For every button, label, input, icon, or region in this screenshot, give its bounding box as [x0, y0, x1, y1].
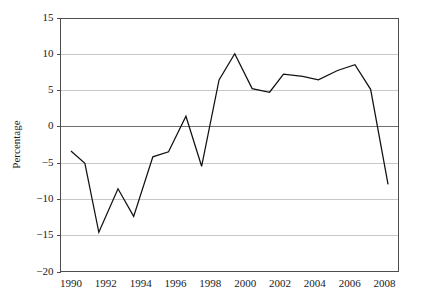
- chart-axes: [61, 18, 399, 272]
- x-axis-tick-label: 2006: [339, 277, 362, 289]
- x-axis-tick-label: 2004: [304, 277, 327, 289]
- x-axis-tick-label: 2000: [234, 277, 257, 289]
- x-axis-tick-label: 2002: [269, 277, 291, 289]
- y-axis-tick-label: 5: [48, 83, 54, 95]
- x-axis-tick-label: 1994: [130, 277, 153, 289]
- y-axis-tick-label: −10: [36, 192, 54, 204]
- series-line-percentage: [71, 54, 388, 233]
- y-axis-tick-label: 15: [43, 11, 55, 23]
- x-axis-tick-label: 1990: [60, 277, 83, 289]
- y-axis-tick-labels: 151050−5−10−15−20: [36, 11, 54, 277]
- data-series-group: [71, 54, 388, 233]
- y-axis-tick-label: −15: [36, 228, 54, 240]
- line-chart: 151050−5−10−15−20 1990199219941996199820…: [0, 0, 421, 306]
- y-axis-tick-label: −20: [36, 265, 54, 277]
- chart-container: 151050−5−10−15−20 1990199219941996199820…: [0, 0, 421, 306]
- x-axis-tick-labels: 1990199219941996199820002002200420062008: [60, 277, 396, 289]
- x-axis-tick-label: 1998: [199, 277, 222, 289]
- y-axis-tick-label: −5: [42, 156, 54, 168]
- x-axis-tick-label: 1992: [95, 277, 117, 289]
- x-axis-tick-label: 1996: [164, 277, 187, 289]
- axis-tickmarks: [57, 19, 61, 273]
- x-axis-tick-label: 2008: [374, 277, 397, 289]
- y-axis-title: Percentage: [10, 120, 22, 168]
- y-axis-title-text: Percentage: [10, 120, 22, 168]
- y-axis-tick-label: 10: [43, 47, 55, 59]
- y-axis-tick-label: 0: [48, 119, 54, 131]
